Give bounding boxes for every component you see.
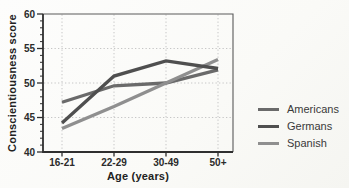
y-tick-label: 50 <box>24 78 36 89</box>
y-tick-label: 40 <box>24 147 36 158</box>
legend-label: Spanish <box>287 138 327 149</box>
legend-item-spanish: Spanish <box>258 135 339 152</box>
plot-area: 404550556016-2122-2930-4950+ <box>0 0 349 188</box>
legend-label: Germans <box>287 121 332 132</box>
conscientiousness-age-line-chart: 404550556016-2122-2930-4950+ Conscientio… <box>0 0 349 188</box>
y-tick-label: 45 <box>24 112 36 123</box>
y-tick-label: 55 <box>24 43 36 54</box>
x-tick-label: 30-49 <box>153 157 179 168</box>
legend-label: Americans <box>287 104 339 115</box>
legend: AmericansGermansSpanish <box>258 101 339 152</box>
x-tick-label: 16-21 <box>49 157 75 168</box>
x-tick-label: 22-29 <box>101 157 127 168</box>
legend-item-americans: Americans <box>258 101 339 118</box>
legend-swatch-spanish <box>258 142 279 145</box>
line-americans <box>62 70 218 102</box>
legend-item-germans: Germans <box>258 118 339 135</box>
y-tick-label: 60 <box>24 9 36 20</box>
legend-swatch-americans <box>258 108 279 111</box>
legend-swatch-germans <box>258 125 279 128</box>
x-tick-label: 50+ <box>210 157 227 168</box>
x-axis-title: Age (years) <box>43 170 233 182</box>
y-axis-title: Conscientiousness score <box>6 3 20 163</box>
